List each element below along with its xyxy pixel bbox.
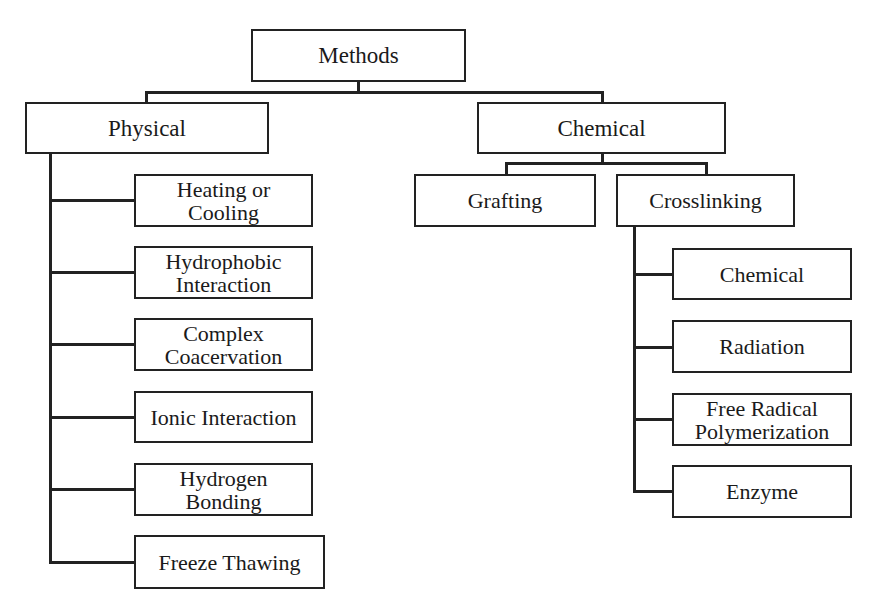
node-label-line2: Cooling bbox=[188, 201, 259, 224]
node-label-line1: Heating or bbox=[177, 178, 270, 201]
node-label: Ionic Interaction bbox=[151, 406, 297, 429]
node-label-line2: Polymerization bbox=[695, 420, 829, 443]
node-grafting: Grafting bbox=[414, 174, 596, 227]
branch-cl-radiation bbox=[633, 346, 673, 349]
node-cl-chemical: Chemical bbox=[672, 248, 852, 300]
node-label-line1: Complex bbox=[183, 322, 264, 345]
crosslinking-spine bbox=[633, 226, 636, 492]
node-cl-radiation: Radiation bbox=[672, 320, 852, 373]
node-chemical: Chemical bbox=[477, 102, 726, 154]
node-label-line2: Coacervation bbox=[165, 345, 282, 368]
node-hydrogen-bonding: Hydrogen Bonding bbox=[134, 463, 313, 516]
physical-spine bbox=[49, 153, 52, 563]
branch-hydrogen bbox=[49, 488, 135, 491]
node-label: Physical bbox=[108, 117, 186, 140]
node-label-line1: Free Radical bbox=[706, 397, 818, 420]
node-hydrophobic-interaction: Hydrophobic Interaction bbox=[134, 246, 313, 299]
node-complex-coacervation: Complex Coacervation bbox=[134, 318, 313, 371]
branch-hydrophobic bbox=[49, 271, 135, 274]
node-label: Grafting bbox=[468, 189, 543, 212]
node-enzyme: Enzyme bbox=[672, 465, 852, 518]
branch-ionic bbox=[49, 416, 135, 419]
node-label-line1: Hydrophobic bbox=[165, 250, 281, 273]
node-ionic-interaction: Ionic Interaction bbox=[134, 391, 313, 443]
node-freeze-thawing: Freeze Thawing bbox=[134, 535, 325, 589]
node-label-line2: Interaction bbox=[176, 273, 271, 296]
node-label-line1: Hydrogen bbox=[180, 467, 268, 490]
node-label: Methods bbox=[318, 44, 399, 67]
node-label: Chemical bbox=[557, 117, 645, 140]
branch-heating bbox=[49, 199, 135, 202]
node-label: Freeze Thawing bbox=[159, 551, 301, 574]
branch-complex bbox=[49, 343, 135, 346]
node-label: Chemical bbox=[720, 263, 804, 286]
node-label: Enzyme bbox=[726, 480, 798, 503]
connector-chemical-bar bbox=[505, 162, 707, 165]
branch-cl-chemical bbox=[633, 273, 673, 276]
node-label: Radiation bbox=[719, 335, 805, 358]
node-crosslinking: Crosslinking bbox=[616, 174, 795, 227]
node-label: Crosslinking bbox=[649, 189, 761, 212]
node-label-line2: Bonding bbox=[186, 490, 262, 513]
node-heating-or-cooling: Heating or Cooling bbox=[134, 174, 313, 227]
connector-top-bar bbox=[145, 91, 603, 94]
node-free-radical-polymerization: Free Radical Polymerization bbox=[672, 393, 852, 446]
branch-freeze bbox=[49, 561, 135, 564]
node-physical: Physical bbox=[25, 102, 269, 154]
branch-cl-freeradical bbox=[633, 418, 673, 421]
branch-cl-enzyme bbox=[633, 490, 673, 493]
node-methods: Methods bbox=[251, 29, 466, 82]
